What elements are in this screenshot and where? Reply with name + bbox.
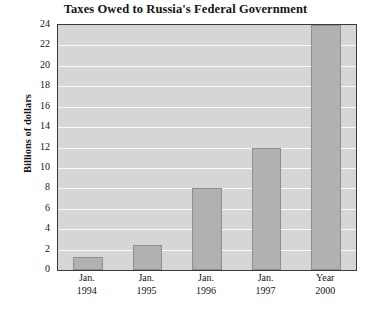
x-axis-tick-labels: Jan.1994Jan.1995Jan.1996Jan.1997Year2000 <box>57 272 355 318</box>
y-axis-tick: 22 <box>40 39 50 49</box>
y-axis-tick: 8 <box>45 182 50 192</box>
y-axis-tick: 6 <box>45 203 50 213</box>
y-axis-tick: 16 <box>40 101 50 111</box>
x-axis-tick: Jan.1996 <box>176 272 236 297</box>
y-axis-tick: 18 <box>40 80 50 90</box>
bar-chart: Taxes Owed to Russia's Federal Governmen… <box>0 0 371 318</box>
y-axis-tick: 12 <box>40 142 50 152</box>
x-axis-tick: Jan.1994 <box>57 272 117 297</box>
y-axis-tick: 10 <box>40 162 50 172</box>
y-axis-tick: 0 <box>45 264 50 274</box>
x-axis-tick-line2: 1997 <box>236 285 296 298</box>
bar-series <box>58 25 356 270</box>
y-axis-tick: 14 <box>40 121 50 131</box>
bar <box>133 245 163 271</box>
x-axis-tick-line1: Jan. <box>57 272 117 285</box>
x-axis-tick-line2: 2000 <box>295 285 355 298</box>
y-axis-tick-labels: 024681012141618202224 <box>0 0 57 318</box>
bar <box>192 188 222 270</box>
bar <box>73 257 103 270</box>
x-axis-tick-line1: Jan. <box>236 272 296 285</box>
x-axis-tick-line2: 1996 <box>176 285 236 298</box>
x-axis-tick: Jan.1995 <box>117 272 177 297</box>
x-axis-tick-line1: Year <box>295 272 355 285</box>
x-axis-tick-line1: Jan. <box>176 272 236 285</box>
plot-area <box>57 24 357 271</box>
bar <box>311 25 341 270</box>
bar <box>252 148 282 271</box>
y-axis-tick: 2 <box>45 244 50 254</box>
x-axis-tick-line2: 1995 <box>117 285 177 298</box>
y-axis-tick: 20 <box>40 60 50 70</box>
y-axis-tick: 4 <box>45 223 50 233</box>
x-axis-tick-line2: 1994 <box>57 285 117 298</box>
x-axis-tick: Year2000 <box>295 272 355 297</box>
x-axis-tick-line1: Jan. <box>117 272 177 285</box>
y-axis-tick: 24 <box>40 19 50 29</box>
x-axis-tick: Jan.1997 <box>236 272 296 297</box>
